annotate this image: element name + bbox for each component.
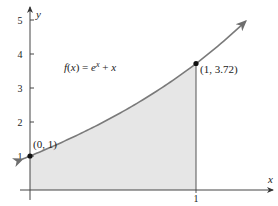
y-axis-ticks: 12345 — [18, 15, 35, 162]
point-label: (1, 3.72) — [200, 63, 238, 76]
chart-area: 12345 1 (0, 1)(1, 3.72) x y f(x) = ex + … — [0, 0, 278, 206]
y-tick-label: 1 — [18, 151, 23, 162]
x-axis-ticks: 1 — [194, 193, 199, 204]
y-tick-label: 4 — [18, 49, 23, 60]
y-tick-label: 5 — [18, 15, 23, 26]
y-axis-label: y — [35, 8, 41, 20]
y-tick-label: 3 — [18, 83, 23, 94]
x-axis-label: x — [267, 173, 273, 185]
y-tick-label: 2 — [18, 117, 23, 128]
shaded-area-region — [30, 64, 196, 190]
point-marker — [193, 61, 198, 66]
x-tick-label: 1 — [194, 193, 199, 204]
point-label: (0, 1) — [33, 138, 57, 151]
point-marker — [27, 153, 32, 158]
function-label: f(x) = ex + x — [64, 60, 116, 74]
